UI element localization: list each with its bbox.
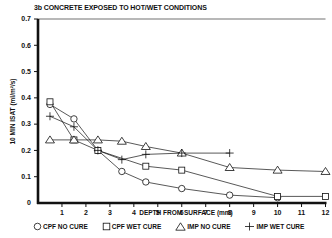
y-tick-label: 0.4 <box>21 94 31 101</box>
circle-marker-icon <box>119 168 125 174</box>
triangle-marker-icon <box>45 136 54 143</box>
triangle-marker-icon <box>175 222 186 231</box>
y-tick-label: 0.1 <box>21 173 31 180</box>
triangle-marker-icon <box>321 167 330 174</box>
plus-marker-icon <box>244 222 255 231</box>
legend-label: IMP NO CURE <box>187 223 230 230</box>
square-marker-icon <box>47 99 53 105</box>
x-axis-label: DEPTH FROM SURFACE (mm) <box>0 209 332 216</box>
circle-marker-icon <box>143 179 149 185</box>
y-axis-label: 10 MIN ISAT (ml/m²/s) <box>9 62 16 162</box>
series-line <box>50 140 326 172</box>
triangle-marker-icon <box>93 136 102 143</box>
legend: CPF NO CURE CPF WET CURE IMP NO CURE IMP… <box>33 222 318 231</box>
legend-item-cpf-no-cure: CPF NO CURE <box>33 222 88 231</box>
square-marker-icon <box>275 193 281 199</box>
circle-marker-icon <box>179 185 185 191</box>
y-tick-label: 0 <box>27 199 31 206</box>
square-marker-icon <box>102 222 111 231</box>
plot-area: 00.10.20.30.40.50.60.7123456789101112 <box>0 0 332 238</box>
legend-item-cpf-wet-cure: CPF WET CURE <box>102 222 161 231</box>
y-tick-label: 0.7 <box>21 15 31 22</box>
legend-item-imp-wet-cure: IMP WET CURE <box>244 222 304 231</box>
legend-label: CPF WET CURE <box>112 223 161 230</box>
square-marker-icon <box>179 167 185 173</box>
circle-marker-icon <box>71 116 77 122</box>
y-tick-label: 0.3 <box>21 120 31 127</box>
y-tick-label: 0.6 <box>21 42 31 49</box>
square-marker-icon <box>323 193 329 199</box>
series-line <box>50 102 326 197</box>
circle-marker-icon <box>33 222 42 231</box>
legend-label: CPF NO CURE <box>43 223 88 230</box>
series-line <box>50 104 278 197</box>
y-tick-label: 0.5 <box>21 68 31 75</box>
legend-item-imp-no-cure: IMP NO CURE <box>175 222 230 231</box>
triangle-marker-icon <box>225 164 234 171</box>
legend-label: IMP WET CURE <box>256 223 304 230</box>
y-tick-label: 0.2 <box>21 147 31 154</box>
square-marker-icon <box>143 163 149 169</box>
circle-marker-icon <box>226 192 232 198</box>
